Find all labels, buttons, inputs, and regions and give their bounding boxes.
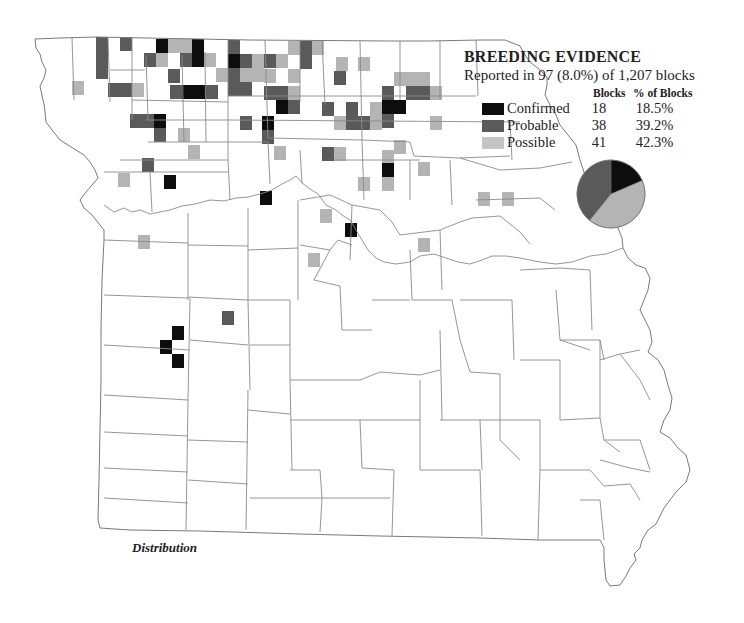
atlas-block <box>358 57 370 71</box>
atlas-block <box>382 163 394 177</box>
legend-title: BREEDING EVIDENCE <box>464 48 695 66</box>
atlas-block <box>276 54 288 68</box>
atlas-block <box>320 209 332 223</box>
atlas-block <box>406 86 430 100</box>
atlas-block <box>156 53 168 67</box>
atlas-block <box>222 311 234 325</box>
atlas-block <box>120 37 132 51</box>
atlas-block <box>240 54 252 68</box>
legend-row-confirmed: Confirmed 18 18.5% <box>482 100 742 117</box>
legend-percent-value: 18.5% <box>627 100 682 117</box>
atlas-block <box>168 39 192 53</box>
atlas-block <box>164 175 176 189</box>
legend-blocks-value: 41 <box>584 134 614 151</box>
probable-swatch <box>482 120 504 132</box>
atlas-block <box>192 39 204 67</box>
confirmed-swatch <box>482 103 504 115</box>
atlas-block <box>288 86 300 100</box>
atlas-block <box>418 162 430 176</box>
atlas-block <box>154 114 166 128</box>
atlas-block <box>288 100 300 114</box>
atlas-block <box>168 69 180 83</box>
atlas-block <box>288 69 300 83</box>
atlas-block <box>160 340 172 354</box>
evidence-pie-chart <box>577 160 645 228</box>
atlas-block <box>346 102 358 116</box>
legend-row-possible: Possible 41 42.3% <box>482 134 742 151</box>
legend-percent-value: 42.3% <box>627 134 682 151</box>
legend-subtitle: Reported in 97 (8.0%) of 1,207 blocks <box>464 66 695 84</box>
atlas-block <box>188 145 200 159</box>
atlas-block <box>182 85 206 99</box>
legend-row-probable: Probable 38 39.2% <box>482 117 742 134</box>
column-header-blocks: Blocks <box>593 87 626 99</box>
atlas-block <box>172 354 184 368</box>
atlas-block <box>130 114 154 128</box>
atlas-block <box>228 40 240 54</box>
atlas-block <box>276 100 288 114</box>
atlas-block <box>382 150 394 164</box>
atlas-block <box>288 41 300 55</box>
atlas-block <box>322 147 334 161</box>
legend-blocks-value: 18 <box>584 100 614 117</box>
possible-swatch <box>482 137 504 149</box>
atlas-block <box>322 102 334 116</box>
atlas-block <box>172 326 184 340</box>
legend-percent-value: 39.2% <box>627 117 682 134</box>
atlas-block <box>334 71 346 85</box>
atlas-block <box>96 37 108 79</box>
atlas-block <box>108 83 132 97</box>
atlas-block <box>240 116 252 130</box>
atlas-block <box>370 102 382 116</box>
legend-label: Possible <box>507 134 555 151</box>
atlas-block <box>418 238 430 252</box>
atlas-block <box>300 41 312 69</box>
atlas-block <box>382 86 394 100</box>
map-caption: Distribution <box>132 540 197 556</box>
legend-label: Confirmed <box>507 100 570 117</box>
atlas-block <box>118 173 130 187</box>
atlas-block <box>240 82 252 96</box>
atlas-block <box>154 128 166 142</box>
atlas-block <box>478 192 490 206</box>
atlas-block <box>206 85 218 99</box>
atlas-block <box>240 68 252 82</box>
atlas-block <box>264 86 288 100</box>
atlas-block <box>204 53 216 67</box>
legend-label: Probable <box>507 117 559 134</box>
atlas-block <box>382 100 406 114</box>
atlas-block <box>132 83 144 97</box>
atlas-block <box>308 253 320 267</box>
atlas-block <box>370 116 382 130</box>
atlas-block <box>430 116 442 130</box>
atlas-block <box>394 72 430 86</box>
atlas-block <box>334 116 346 130</box>
column-header-percent: % of Blocks <box>633 87 692 99</box>
atlas-block <box>382 177 394 191</box>
atlas-block <box>274 146 286 160</box>
atlas-block <box>334 147 346 161</box>
atlas-block <box>336 57 348 71</box>
atlas-block <box>346 116 370 130</box>
atlas-block <box>252 68 264 82</box>
breeding-evidence-legend: BREEDING EVIDENCE Reported in 97 (8.0%) … <box>464 48 695 84</box>
legend-blocks-value: 38 <box>584 117 614 134</box>
atlas-block <box>252 54 264 68</box>
breeding-blocks-layer <box>72 37 514 368</box>
atlas-block <box>228 54 240 68</box>
atlas-block <box>170 85 182 99</box>
atlas-block <box>228 68 240 96</box>
atlas-block <box>216 68 228 82</box>
atlas-block <box>156 39 168 53</box>
